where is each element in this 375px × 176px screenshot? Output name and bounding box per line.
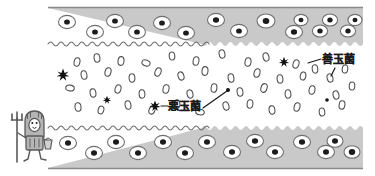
good-bacterium xyxy=(237,87,244,96)
wall-cell xyxy=(87,25,104,38)
bottom-intestinal-wall xyxy=(48,126,363,169)
good-bacterium xyxy=(312,65,318,74)
mascot-face xyxy=(29,118,40,131)
wall-cell xyxy=(154,16,171,29)
wall-cell xyxy=(107,14,124,27)
good-bacterium xyxy=(218,49,225,58)
wall-cell xyxy=(129,25,146,38)
good-bacterium xyxy=(202,66,209,75)
good-bacterium xyxy=(293,102,301,112)
good-bacterium xyxy=(104,67,112,77)
wall-cell xyxy=(108,135,125,148)
good-bacterium xyxy=(332,90,340,99)
wall-cell xyxy=(59,15,76,28)
good-bacterium xyxy=(292,59,300,69)
mascot-body xyxy=(18,111,52,161)
mascot-leg-left xyxy=(24,150,30,161)
good-bacterium xyxy=(268,105,275,114)
good-bacterium xyxy=(211,83,218,92)
good-bacterium xyxy=(139,90,145,99)
good-bacterium xyxy=(260,83,269,93)
wall-cell xyxy=(340,25,355,37)
mascot-eye-left xyxy=(31,122,33,124)
bad-bacterium xyxy=(279,57,289,67)
mascot-basket xyxy=(44,140,52,149)
good-bacterium xyxy=(186,89,194,99)
wall-cell xyxy=(224,145,241,158)
good-bacterium xyxy=(253,68,261,78)
dot-particle xyxy=(325,98,329,102)
good-bacterium xyxy=(326,73,334,83)
good-bacterium xyxy=(141,59,151,67)
good-bacterium xyxy=(80,70,87,79)
wall-cell xyxy=(177,146,194,159)
good-bacterium xyxy=(192,56,199,65)
wall-cell xyxy=(231,24,248,37)
intestine-diagram xyxy=(0,0,375,176)
wall-cell xyxy=(247,134,264,147)
good-bacterium xyxy=(285,90,292,99)
wall-cell xyxy=(267,145,284,158)
wall-cell xyxy=(294,135,311,148)
wall-cell xyxy=(312,25,327,37)
pitchfork-icon xyxy=(12,112,23,162)
pitchfork-prongs xyxy=(12,112,22,120)
good-bacterium xyxy=(277,74,284,83)
leader-line-good-left xyxy=(308,59,321,63)
good-bacterium xyxy=(75,102,82,111)
bad-bacterium xyxy=(103,96,111,104)
good-bacterium xyxy=(338,100,345,109)
good-bacterium xyxy=(319,108,326,117)
wall-cell xyxy=(86,146,103,159)
good-bacterium xyxy=(129,74,135,83)
label-good-bacteria: 善玉菌 xyxy=(322,54,355,66)
top-wall-wavy-edge xyxy=(48,42,209,46)
good-bacterium xyxy=(244,57,251,66)
good-bacterium xyxy=(124,100,131,109)
wall-cell xyxy=(327,135,343,148)
good-bacteria-group xyxy=(65,49,355,116)
devil-bacteria-mascot xyxy=(12,111,53,162)
mascot-leg-right xyxy=(39,150,46,160)
good-bacterium xyxy=(308,85,315,95)
good-bacterium xyxy=(65,85,74,92)
illustration-canvas: 善玉菌 悪玉菌 xyxy=(0,0,375,176)
good-bacterium xyxy=(262,52,270,62)
wall-cell xyxy=(130,146,147,159)
top-intestinal-wall xyxy=(48,8,363,47)
wall-cell xyxy=(348,14,362,25)
wall-cell xyxy=(178,26,195,39)
good-bacterium xyxy=(118,56,125,65)
wall-cell xyxy=(208,13,225,26)
good-bacterium xyxy=(222,101,230,111)
mascot-eye-right xyxy=(36,122,38,124)
wall-cell xyxy=(344,146,360,159)
wall-cell xyxy=(257,14,275,28)
good-bacterium xyxy=(177,71,185,81)
wall-cell xyxy=(60,136,77,149)
good-bacterium xyxy=(247,100,254,109)
good-bacterium xyxy=(94,53,101,62)
good-bacterium xyxy=(97,105,104,114)
good-bacterium xyxy=(154,67,163,77)
wall-cell xyxy=(199,135,216,148)
intestinal-lumen xyxy=(57,49,355,116)
good-bacterium xyxy=(73,57,80,67)
wall-cell xyxy=(286,25,303,38)
wall-cell xyxy=(294,14,308,25)
good-bacterium xyxy=(227,73,234,82)
good-bacterium xyxy=(114,84,122,94)
wall-cell xyxy=(322,14,337,26)
label-bad-bacteria: 悪玉菌 xyxy=(168,101,201,113)
leader-line-good-down xyxy=(331,68,335,76)
good-bacterium xyxy=(299,71,306,80)
bottom-wall-wavy-edge xyxy=(48,126,209,130)
good-bacterium xyxy=(349,82,355,91)
bad-bacterium xyxy=(57,69,70,81)
good-bacterium xyxy=(169,52,175,61)
wall-cell xyxy=(155,135,172,148)
good-bacterium xyxy=(89,88,96,97)
good-bacterium xyxy=(162,84,170,94)
